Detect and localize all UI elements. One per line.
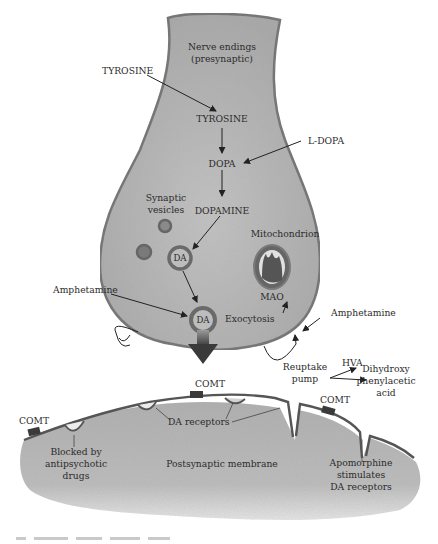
label-dihydroxy: Dihydroxy xyxy=(362,363,410,374)
label-pump: pump xyxy=(292,373,319,384)
label-mitochondrion: Mitochondrion xyxy=(251,228,320,239)
label-apomorphine: Apomorphine xyxy=(329,457,393,468)
label-presynaptic: (presynaptic) xyxy=(191,53,253,64)
label-nerve-endings: Nerve endings xyxy=(188,41,256,52)
label-postsynaptic-membrane: Postsynaptic membrane xyxy=(166,458,278,469)
label-comt-right: COMT xyxy=(320,394,351,405)
label-comt-center: COMT xyxy=(195,378,226,389)
label-dopamine: DOPAMINE xyxy=(195,205,250,216)
label-l-dopa: L-DOPA xyxy=(308,135,344,146)
comt-block-center xyxy=(190,391,203,398)
label-acid: acid xyxy=(376,387,396,398)
label-blocked-by: Blocked by xyxy=(50,446,102,457)
dopamine-synapse-diagram: Nerve endings (presynaptic) TYROSINE TYR… xyxy=(0,0,438,544)
label-da-receptors: DA receptors xyxy=(168,416,230,427)
label-amphetamine-right: Amphetamine xyxy=(330,307,396,318)
mitochondrion xyxy=(254,245,290,289)
label-vesicles: vesicles xyxy=(147,204,185,215)
caption-cropped xyxy=(16,537,216,544)
label-exocytosis-da: DA xyxy=(196,315,210,325)
label-phenylacetic: phenylacetic xyxy=(356,375,415,386)
label-reuptake: Reuptake xyxy=(283,361,327,372)
comt-block-right xyxy=(321,405,335,415)
label-synaptic: Synaptic xyxy=(146,192,187,203)
label-dopa: DOPA xyxy=(209,158,236,169)
label-da-receptors-apomorphine: DA receptors xyxy=(330,481,392,492)
vesicle-small-2 xyxy=(137,245,151,259)
label-mao: MAO xyxy=(260,291,284,302)
label-vesicle-da: DA xyxy=(173,253,187,263)
label-tyrosine-external: TYROSINE xyxy=(102,65,153,76)
label-tyrosine-internal: TYROSINE xyxy=(196,113,247,124)
label-comt-left: COMT xyxy=(19,415,50,426)
label-amphetamine-left: Amphetamine xyxy=(52,284,118,295)
da-receptor-right xyxy=(225,398,245,403)
label-drugs: drugs xyxy=(63,470,90,481)
label-antipsychotic: antipsychotic xyxy=(45,458,107,469)
label-hva: HVA xyxy=(342,357,363,368)
vesicle-small-1 xyxy=(159,220,171,232)
label-stimulates: stimulates xyxy=(337,469,386,480)
label-exocytosis: Exocytosis xyxy=(225,313,275,324)
